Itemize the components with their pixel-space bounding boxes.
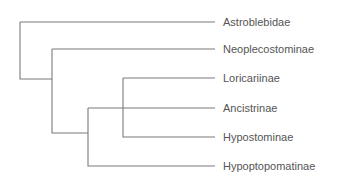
branch-node2 — [52, 49, 88, 133]
tree-diagram — [0, 0, 346, 182]
taxon-label-astroblebidae: Astroblebidae — [223, 16, 290, 28]
taxon-label-hypostominae: Hypostominae — [223, 131, 293, 143]
taxon-label-neoplecostominae: Neoplecostominae — [223, 43, 314, 55]
branch-root — [20, 22, 52, 79]
taxon-label-hypoptopomatinae: Hypoptopomatinae — [223, 160, 315, 172]
taxon-label-ancistrinae: Ancistrinae — [223, 102, 277, 114]
taxon-label-loricariinae: Loricariinae — [223, 72, 280, 84]
